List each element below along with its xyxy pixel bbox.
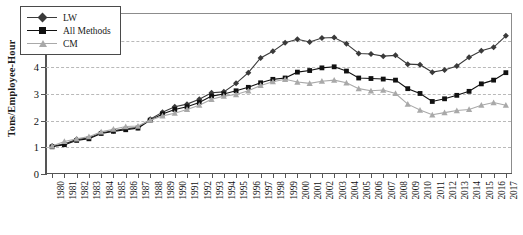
y-tick-label: 4 (34, 62, 39, 73)
x-tick-label: 2000 (301, 181, 311, 200)
data-point-marker (320, 65, 325, 70)
legend-item-lw[interactable]: LW (27, 11, 111, 24)
x-tick (199, 174, 200, 178)
x-tick-label: 2007 (387, 181, 397, 200)
x-tick (481, 174, 482, 178)
legend-label: All Methods (63, 26, 111, 36)
x-tick-label: 1980 (56, 181, 66, 200)
x-tick-label: 2009 (411, 181, 421, 200)
x-tick (359, 174, 360, 178)
x-tick-label: 1996 (252, 181, 262, 200)
x-tick-label: 1985 (117, 181, 127, 200)
data-point-marker (479, 81, 484, 86)
data-point-marker (417, 62, 423, 68)
y-tick-label: 0 (34, 169, 39, 180)
data-point-marker (380, 53, 386, 59)
data-point-marker (307, 68, 312, 73)
data-point-marker (417, 107, 423, 113)
x-tick (334, 174, 335, 178)
x-tick (494, 174, 495, 178)
series-line (52, 79, 506, 146)
x-tick-label: 1984 (105, 181, 115, 200)
x-tick-label: 1995 (239, 181, 249, 200)
x-tick-label: 2008 (399, 181, 409, 200)
x-tick (163, 174, 164, 178)
x-tick (187, 174, 188, 178)
data-point-marker (319, 35, 325, 41)
data-point-marker (503, 70, 508, 75)
x-tick-label: 2001 (313, 181, 323, 200)
x-tick (297, 174, 298, 178)
x-tick-label: 2016 (497, 181, 507, 200)
x-tick (322, 174, 323, 178)
legend-label: LW (63, 13, 77, 23)
x-tick (101, 174, 102, 178)
data-point-marker (294, 36, 300, 42)
data-point-marker (418, 91, 423, 96)
x-tick-label: 1994 (227, 181, 237, 200)
x-tick (273, 174, 274, 178)
x-tick (506, 174, 507, 178)
x-tick (89, 174, 90, 178)
y-axis-title-text: Tons/Employee-Hour (7, 39, 18, 137)
data-point-marker (381, 77, 386, 82)
x-tick (138, 174, 139, 178)
x-tick (224, 174, 225, 178)
x-tick-label: 1987 (141, 181, 151, 200)
x-tick (371, 174, 372, 178)
legend-symbol-icon (27, 25, 57, 37)
data-point-marker (430, 99, 435, 104)
x-tick-label: 2012 (448, 181, 458, 200)
x-tick (457, 174, 458, 178)
x-tick (236, 174, 237, 178)
x-tick-label: 1999 (289, 181, 299, 200)
y-tick-label: 1 (34, 142, 39, 153)
y-tick-label: 3 (34, 89, 39, 100)
data-point-marker (331, 34, 337, 40)
legend-item-cm[interactable]: CM (27, 37, 111, 50)
legend-symbol-icon (27, 12, 57, 24)
x-tick-label: 1988 (154, 181, 164, 200)
x-tick (77, 174, 78, 178)
data-point-marker (491, 99, 497, 105)
data-point-marker (368, 51, 374, 57)
x-tick-label: 1983 (92, 181, 102, 200)
data-point-marker (393, 78, 398, 83)
x-tick-label: 1981 (68, 181, 78, 200)
x-tick-label: 1986 (129, 181, 139, 200)
x-tick (150, 174, 151, 178)
x-tick (212, 174, 213, 178)
x-tick (113, 174, 114, 178)
x-tick (420, 174, 421, 178)
data-point-marker (369, 76, 374, 81)
legend-symbol-icon (27, 38, 57, 50)
x-tick-label: 1989 (166, 181, 176, 200)
x-tick-label: 1991 (190, 181, 200, 200)
data-point-marker (491, 78, 496, 83)
x-tick (346, 174, 347, 178)
x-tick-label: 1982 (80, 181, 90, 200)
series-all-methods (50, 64, 509, 149)
x-tick-label: 2005 (362, 181, 372, 200)
chart-container: Tons/Employee-Hour 0123456 1980198119821… (0, 0, 523, 235)
x-tick (408, 174, 409, 178)
series-line (52, 67, 506, 147)
data-point-marker (454, 93, 459, 98)
x-tick-label: 2011 (436, 181, 446, 199)
x-tick (432, 174, 433, 178)
x-tick-label: 1990 (178, 181, 188, 200)
data-point-marker (307, 39, 313, 45)
x-tick (396, 174, 397, 178)
legend-item-all-methods[interactable]: All Methods (27, 24, 111, 37)
data-point-marker (478, 48, 484, 54)
data-point-marker (356, 76, 361, 81)
data-point-marker (429, 69, 435, 75)
x-tick-label: 2017 (509, 181, 519, 200)
x-tick (52, 174, 53, 178)
x-tick-label: 2013 (460, 181, 470, 200)
data-point-marker (442, 67, 448, 73)
x-tick (261, 174, 262, 178)
x-tick-label: 1997 (264, 181, 274, 200)
x-tick-label: 2015 (485, 181, 495, 200)
x-tick-label: 2002 (325, 181, 335, 200)
